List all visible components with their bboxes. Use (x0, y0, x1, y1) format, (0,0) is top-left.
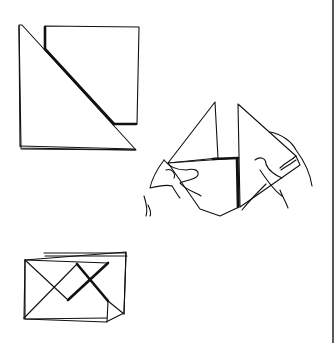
step-3-crossed-folds (24, 252, 127, 322)
folding-illustration (0, 0, 335, 343)
page-edge-border (332, 0, 334, 343)
step-1-diagonal-fold (19, 25, 139, 150)
step-2-hands-folding (144, 102, 312, 216)
